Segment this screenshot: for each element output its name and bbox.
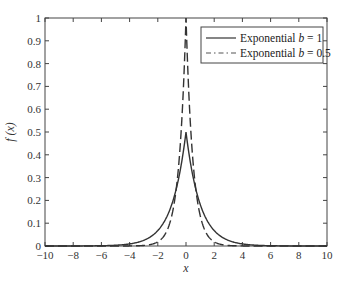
- x-tick-label: 0: [183, 249, 189, 261]
- x-tick-labels: −10−8−6−4−20246810: [36, 249, 333, 261]
- x-tick-label: −8: [67, 249, 79, 261]
- x-tick-label: −4: [124, 249, 136, 261]
- x-tick-label: 10: [322, 249, 334, 261]
- y-axis-label: f (x): [3, 122, 17, 142]
- y-tick-label: 0.6: [27, 103, 41, 115]
- legend: Exponential b = 1 Exponential b = 0.5: [201, 27, 331, 63]
- x-tick-label: −2: [152, 249, 164, 261]
- x-tick-label: 8: [296, 249, 302, 261]
- legend-label-b1: Exponential b = 1: [240, 32, 322, 45]
- y-tick-label: 0.2: [27, 194, 41, 206]
- chart: −10−8−6−4−20246810 00.10.20.30.40.50.60.…: [0, 0, 344, 284]
- legend-label-b05: Exponential b = 0.5: [240, 47, 331, 60]
- y-tick-label: 0.7: [27, 80, 41, 92]
- x-tick-label: 4: [240, 249, 246, 261]
- y-tick-label: 0.8: [27, 58, 41, 70]
- x-tick-label: −6: [96, 249, 108, 261]
- y-tick-label: 0.9: [27, 35, 41, 47]
- x-tick-label: 6: [268, 249, 274, 261]
- y-tick-label: 0.4: [27, 149, 41, 161]
- y-tick-label: 0: [36, 240, 42, 252]
- y-tick-label: 0.3: [27, 172, 41, 184]
- y-tick-label: 1: [36, 12, 42, 24]
- x-axis-label: x: [182, 261, 189, 275]
- y-tick-label: 0.5: [27, 126, 41, 138]
- y-tick-labels: 00.10.20.30.40.50.60.70.80.91: [27, 12, 41, 252]
- x-tick-label: 2: [211, 249, 217, 261]
- y-tick-label: 0.1: [27, 217, 41, 229]
